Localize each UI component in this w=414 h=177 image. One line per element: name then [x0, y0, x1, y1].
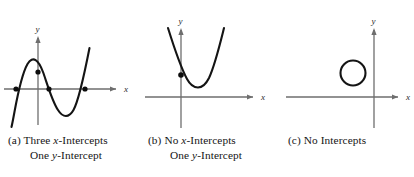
panel-a-tag: (a): [8, 134, 24, 146]
panel-c-circle-curve: [341, 61, 366, 86]
panel-c: x y (c) No Intercepts: [280, 0, 414, 177]
panel-a-svg: x y: [0, 0, 140, 133]
panel-c-x-axis-label: x: [405, 92, 410, 102]
panel-a-x-intercept-right-dot: [82, 86, 87, 91]
panel-c-caption: (c) No Intercepts: [280, 133, 414, 148]
panel-c-plot: x y: [280, 0, 414, 133]
panel-c-tag: (c): [288, 134, 304, 146]
panel-a-y-axis-label: y: [35, 24, 40, 34]
panel-a-caption-1-post: -Intercepts: [58, 134, 107, 146]
panel-b-tag: (b): [148, 134, 164, 146]
panel-b-plot: x y: [140, 0, 280, 133]
panel-a-caption-2-post: -Intercept: [57, 149, 102, 161]
panel-a-caption: (a) Three x-Intercepts One y-Intercept: [0, 133, 140, 163]
panel-a-caption-line-2: One y-Intercept: [0, 148, 140, 163]
panel-b-x-axis: [145, 94, 253, 99]
panel-a-caption-2-pre: One: [30, 149, 52, 161]
panel-b-y-axis-label: y: [178, 16, 183, 26]
panel-b-caption-line-2: One y-Intercept: [140, 148, 280, 163]
panel-a-x-intercept-middle-dot: [46, 86, 51, 91]
panel-a-y-axis: [35, 36, 40, 125]
panel-c-caption-line-1: (c) No Intercepts: [280, 133, 414, 148]
panel-a-plot: x y: [0, 0, 140, 133]
intercepts-figure: x y (a) Three x-Intercepts One y-Interce…: [0, 0, 414, 177]
panel-b-y-intercept-dot: [178, 72, 184, 78]
panel-b: x y (b) No x-Intercepts One y-Intercept: [140, 0, 280, 177]
panel-c-y-axis-label: y: [371, 16, 376, 26]
panel-b-caption-2-pre: One: [170, 149, 192, 161]
panel-a-caption-line-1: (a) Three x-Intercepts: [0, 133, 140, 148]
panel-b-caption-line-1: (b) No x-Intercepts: [140, 133, 280, 148]
panel-c-x-axis: [286, 94, 398, 99]
panel-a-x-intercept-left-dot: [13, 86, 18, 91]
panel-a: x y (a) Three x-Intercepts One y-Interce…: [0, 0, 140, 177]
panel-b-caption-2-post: -Intercept: [197, 149, 242, 161]
panel-b-caption-1-post: -Intercepts: [186, 134, 235, 146]
panel-b-caption-1-pre: No: [164, 134, 181, 146]
panel-b-x-axis-label: x: [260, 92, 265, 102]
panel-a-caption-1-pre: Three: [24, 134, 54, 146]
panel-b-y-axis: [178, 28, 183, 128]
panel-b-caption: (b) No x-Intercepts One y-Intercept: [140, 133, 280, 163]
panel-c-caption-1-pre: No Intercepts: [304, 134, 366, 146]
panel-c-y-axis: [371, 28, 376, 128]
panel-b-svg: x y: [140, 0, 280, 133]
panel-a-x-axis-label: x: [123, 84, 128, 94]
panel-c-svg: x y: [280, 0, 414, 133]
panel-a-x-axis: [4, 86, 116, 91]
panel-b-parabola-curve: [168, 28, 224, 88]
panel-a-y-intercept-dot: [35, 69, 40, 74]
